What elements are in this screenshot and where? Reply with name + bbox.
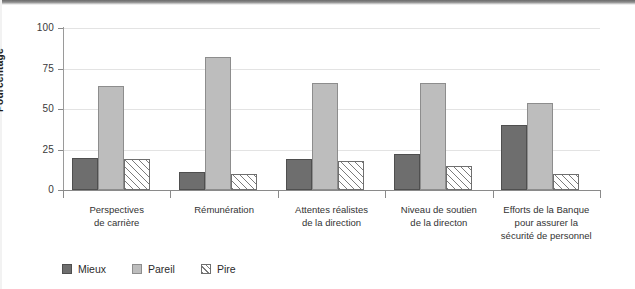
category-label-line: Attentes réalistes — [278, 203, 385, 216]
axis-end-tick — [63, 190, 64, 198]
grouped-bar-chart: Pourcentage 0255075100 Perspectivesde ca… — [0, 0, 635, 289]
legend-item: Pire — [201, 263, 236, 275]
bar-pareil — [527, 103, 553, 190]
category-label-line: Perspectives — [63, 203, 170, 216]
category-separator — [278, 190, 279, 198]
y-axis-tick-label: 0 — [14, 184, 54, 195]
chart-legend: MieuxPareilPire — [62, 263, 236, 275]
bar-mieux — [394, 154, 420, 190]
legend-label: Pareil — [148, 263, 175, 275]
legend-swatch-mieux — [62, 264, 72, 274]
category-label: Attentes réalistesde la direction — [278, 203, 385, 229]
legend-swatch-pire — [201, 264, 211, 274]
legend-item: Mieux — [62, 263, 106, 275]
category-label-line: de la directon — [385, 216, 492, 229]
category-label-line: Niveau de soutien — [385, 203, 492, 216]
category-label: Efforts de la Banquepour assurer lasécur… — [493, 203, 600, 242]
category-separator — [170, 190, 171, 198]
y-axis-tick-labels: 0255075100 — [8, 0, 54, 289]
category-label: Rémunération — [170, 203, 277, 216]
x-axis-category-labels: Perspectivesde carrièreRémunérationAtten… — [63, 203, 600, 255]
bar-group — [493, 28, 600, 190]
bar-pire — [553, 174, 579, 190]
axis-end-tick — [600, 190, 601, 198]
y-axis-tick-label: 50 — [14, 103, 54, 114]
y-axis-title: Pourcentage — [0, 48, 5, 112]
category-label-line: de la direction — [278, 216, 385, 229]
category-separator — [493, 190, 494, 198]
bar-pareil — [98, 86, 124, 190]
legend-swatch-pareil — [132, 264, 142, 274]
bar-mieux — [72, 158, 98, 190]
category-label-line: Efforts de la Banque — [493, 203, 600, 216]
bar-mieux — [286, 159, 312, 190]
x-axis-line — [63, 190, 600, 191]
legend-label: Mieux — [78, 263, 106, 275]
legend-item: Pareil — [132, 263, 175, 275]
category-label-line: Rémunération — [170, 203, 277, 216]
bar-group — [278, 28, 385, 190]
category-label-line: sécurité de personnel — [493, 229, 600, 242]
bar-group — [170, 28, 277, 190]
bar-pareil — [312, 83, 338, 190]
bar-pareil — [205, 57, 231, 190]
legend-label: Pire — [217, 263, 236, 275]
bar-group — [63, 28, 170, 190]
category-label-line: de carrière — [63, 216, 170, 229]
bar-mieux — [501, 125, 527, 190]
bar-groups — [63, 28, 600, 190]
y-axis-tick-label: 100 — [14, 22, 54, 33]
bar-pire — [124, 159, 150, 190]
bar-pire — [338, 161, 364, 190]
bar-pareil — [420, 83, 446, 190]
bar-group — [385, 28, 492, 190]
category-label: Perspectivesde carrière — [63, 203, 170, 229]
bar-pire — [231, 174, 257, 190]
y-axis-tick-label: 75 — [14, 63, 54, 74]
bar-mieux — [179, 172, 205, 190]
category-separator — [385, 190, 386, 198]
category-label: Niveau de soutiende la directon — [385, 203, 492, 229]
bar-pire — [446, 166, 472, 190]
category-label-line: pour assurer la — [493, 216, 600, 229]
y-axis-tick-label: 25 — [14, 144, 54, 155]
